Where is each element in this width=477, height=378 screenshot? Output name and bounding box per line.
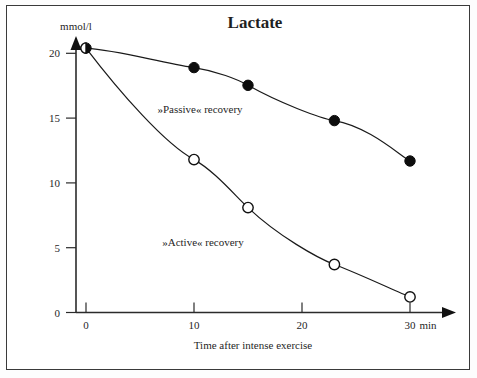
passive-point-10-min bbox=[189, 62, 199, 72]
active-point-15-min bbox=[243, 202, 253, 212]
y-tick-label-5: 5 bbox=[55, 242, 61, 254]
active-point-30-min bbox=[405, 292, 415, 302]
active-point-0-min bbox=[81, 43, 86, 53]
lactate-figure: 0 5 10 15 20 0 10 20 30 mmol/l min Time … bbox=[0, 0, 477, 378]
y-tick-label-0: 0 bbox=[55, 307, 61, 319]
x-axis-unit-label: min bbox=[419, 319, 437, 331]
active-series-label: »Active« recovery bbox=[162, 236, 244, 248]
lactate-chart: 0 5 10 15 20 0 10 20 30 mmol/l min Time … bbox=[0, 0, 477, 378]
x-tick-label-0: 0 bbox=[83, 319, 89, 331]
passive-series-label: »Passive« recovery bbox=[157, 103, 243, 115]
x-tick-label-30: 30 bbox=[405, 319, 417, 331]
y-axis-unit-label: mmol/l bbox=[60, 20, 92, 32]
y-tick-label-15: 15 bbox=[49, 112, 61, 124]
active-point-10-min bbox=[189, 154, 199, 164]
y-tick-label-20: 20 bbox=[49, 47, 61, 59]
x-axis-arrowhead bbox=[442, 307, 456, 318]
chart-title: Lactate bbox=[228, 13, 283, 32]
x-tick-label-10: 10 bbox=[189, 319, 201, 331]
passive-point-23-min bbox=[329, 115, 339, 125]
x-axis-title: Time after intense exercise bbox=[194, 339, 313, 351]
y-axis-arrowhead bbox=[71, 36, 82, 50]
x-tick-label-20: 20 bbox=[297, 319, 309, 331]
y-tick-label-10: 10 bbox=[49, 177, 61, 189]
passive-point-30-min bbox=[405, 156, 415, 166]
passive-point-15-min bbox=[243, 80, 253, 90]
passive-recovery-curve bbox=[86, 48, 410, 161]
active-point-23-min bbox=[329, 259, 339, 269]
